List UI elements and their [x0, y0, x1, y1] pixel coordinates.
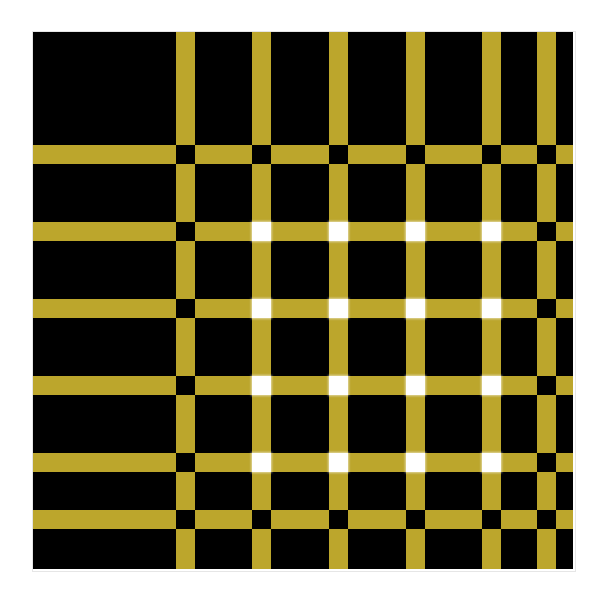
scintillating-grid-illusion — [33, 32, 573, 569]
grid-node-black-r4-c1 — [176, 376, 195, 395]
grid-node-white-r5-c2 — [252, 453, 271, 472]
grid-node-white-r4-c5 — [482, 376, 501, 395]
grid-node-white-r2-c3 — [329, 222, 348, 241]
grid-node-black-r1-c6 — [537, 145, 556, 164]
grid-node-white-r4-c2 — [252, 376, 271, 395]
grid-node-white-r4-c4 — [406, 376, 425, 395]
grid-node-white-r5-c5 — [482, 453, 501, 472]
grid-node-white-r2-c4 — [406, 222, 425, 241]
grid-node-black-r5-c6 — [537, 453, 556, 472]
grid-node-white-r5-c4 — [406, 453, 425, 472]
grid-node-white-r2-c5 — [482, 222, 501, 241]
grid-node-black-r6-c6 — [537, 510, 556, 529]
grid-node-black-r1-c5 — [482, 145, 501, 164]
grid-node-black-r2-c1 — [176, 222, 195, 241]
figure-stage — [0, 0, 606, 600]
grid-node-black-r6-c5 — [482, 510, 501, 529]
grid-node-white-r3-c3 — [329, 299, 348, 318]
grid-node-black-r6-c2 — [252, 510, 271, 529]
grid-node-white-r3-c2 — [252, 299, 271, 318]
grid-node-white-r3-c5 — [482, 299, 501, 318]
grid-node-black-r6-c1 — [176, 510, 195, 529]
grid-node-black-r3-c6 — [537, 299, 556, 318]
grid-node-black-r1-c3 — [329, 145, 348, 164]
grid-node-black-r3-c1 — [176, 299, 195, 318]
grid-node-white-r5-c3 — [329, 453, 348, 472]
grid-node-black-r2-c6 — [537, 222, 556, 241]
grid-node-black-r1-c1 — [176, 145, 195, 164]
grid-node-black-r4-c6 — [537, 376, 556, 395]
grid-node-black-r6-c3 — [329, 510, 348, 529]
grid-node-black-r1-c2 — [252, 145, 271, 164]
grid-node-white-r4-c3 — [329, 376, 348, 395]
grid-node-white-r2-c2 — [252, 222, 271, 241]
grid-node-white-r3-c4 — [406, 299, 425, 318]
grid-node-black-r6-c4 — [406, 510, 425, 529]
grid-node-black-r5-c1 — [176, 453, 195, 472]
grid-node-black-r1-c4 — [406, 145, 425, 164]
